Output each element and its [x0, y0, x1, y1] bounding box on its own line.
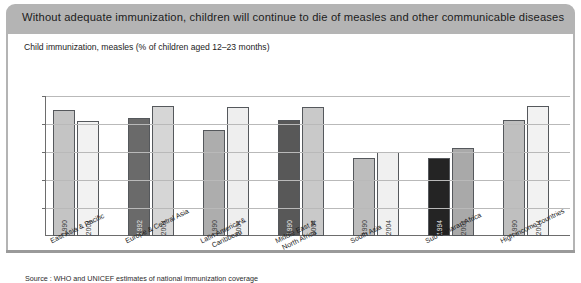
bars-layer: 1990200419922004199020041990200419902004… — [45, 96, 570, 236]
y-axis-tick-mark — [42, 208, 46, 209]
bar[interactable]: 2004 — [227, 107, 249, 236]
bar[interactable]: 1992 — [128, 118, 150, 236]
y-axis-tick-mark — [42, 152, 46, 153]
bar-group: 19902004 — [270, 96, 345, 236]
bar-group: 19942004 — [420, 96, 495, 236]
bar-group: 19902004 — [195, 96, 270, 236]
gridline — [45, 96, 570, 97]
plot-area: 1990200419922004199020041990200419902004… — [45, 96, 570, 236]
panel-bottom-rule — [6, 250, 575, 253]
bar[interactable]: 1990 — [353, 158, 375, 236]
bar[interactable]: 1990 — [203, 130, 225, 236]
bar-year-label: 2004 — [385, 220, 392, 235]
bar-group: 19902004 — [345, 96, 420, 236]
header-band: Without adequate immunization, children … — [6, 4, 575, 34]
y-axis-tick-mark — [42, 180, 46, 181]
page-title: Without adequate immunization, children … — [22, 11, 565, 23]
gridline — [45, 208, 570, 209]
bar[interactable]: 1990 — [278, 120, 300, 236]
y-axis-tick-mark — [42, 124, 46, 125]
bar[interactable]: 1994 — [428, 158, 450, 236]
bar[interactable]: 2004 — [302, 107, 324, 236]
chart-subtitle: Child immunization, measles (% of childr… — [24, 42, 270, 52]
bar[interactable]: 1990 — [503, 120, 525, 236]
chart-panel: Child immunization, measles (% of childr… — [6, 34, 575, 252]
bar[interactable]: 1990 — [53, 110, 75, 236]
source-note: Source : WHO and UNICEF estimates of nat… — [25, 274, 258, 283]
bar[interactable]: 2004 — [377, 152, 399, 236]
gridline — [45, 152, 570, 153]
y-axis-tick-mark — [42, 96, 46, 97]
gridline — [45, 124, 570, 125]
bar-group: 19902004 — [45, 96, 120, 236]
gridline — [45, 180, 570, 181]
